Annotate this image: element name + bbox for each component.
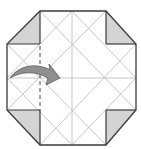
origami-diagram: [0, 0, 141, 149]
